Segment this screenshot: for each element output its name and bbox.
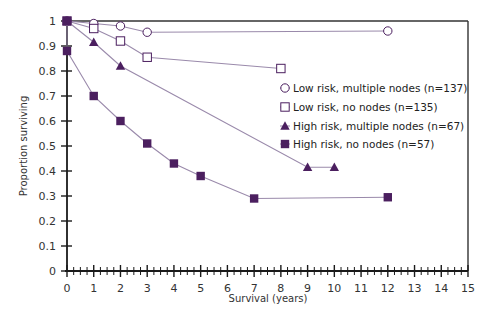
x-tick-label: 13: [408, 282, 422, 295]
open-square-marker: [277, 64, 285, 72]
x-axis-title: Survival (years): [229, 293, 308, 304]
y-tick-label: 0.3: [39, 190, 57, 203]
x-tick-label: 12: [381, 282, 395, 295]
series-line: [67, 21, 281, 69]
y-tick-label: 0.2: [39, 215, 57, 228]
y-tick-label: 0.1: [39, 240, 57, 253]
open-circle-marker: [281, 84, 289, 92]
legend-item-0: Low risk, multiple nodes (n=137): [280, 82, 467, 94]
y-tick-label: 0.6: [39, 115, 57, 128]
x-tick-label: 14: [434, 282, 448, 295]
filled-square-marker: [116, 117, 124, 125]
x-tick-label: 15: [461, 282, 475, 295]
y-tick-label: 0: [49, 265, 56, 278]
filled-square-marker: [196, 172, 204, 180]
filled-square-marker: [170, 159, 178, 167]
y-tick-label: 0.9: [39, 40, 57, 53]
x-axis: 0123456789101112131415: [64, 265, 476, 295]
y-tick-label: 0.4: [39, 165, 57, 178]
filled-square-marker: [63, 17, 71, 25]
legend-label: High risk, multiple nodes (n=67): [293, 120, 464, 132]
legend-item-2: High risk, multiple nodes (n=67): [280, 120, 464, 132]
x-tick-label: 3: [144, 282, 151, 295]
series-0: [63, 17, 392, 37]
open-square-marker: [281, 103, 289, 111]
filled-square-marker: [384, 193, 392, 201]
survival-chart: 00.10.20.30.40.50.60.70.80.91 0123456789…: [0, 0, 491, 327]
legend-label: Low risk, multiple nodes (n=137): [293, 82, 467, 94]
y-tick-label: 0.8: [39, 65, 57, 78]
open-square-marker: [116, 37, 124, 45]
legend-label: Low risk, no nodes (n=135): [293, 101, 438, 113]
x-tick-label: 4: [170, 282, 177, 295]
y-tick-label: 0.5: [39, 140, 57, 153]
y-tick-label: 0.7: [39, 90, 57, 103]
open-circle-marker: [384, 27, 392, 35]
x-tick-label: 2: [117, 282, 124, 295]
y-axis-title: Proportion surviving: [18, 96, 29, 197]
x-tick-label: 11: [354, 282, 368, 295]
x-tick-label: 10: [327, 282, 341, 295]
x-tick-label: 5: [197, 282, 204, 295]
legend-item-1: Low risk, no nodes (n=135): [280, 101, 438, 113]
filled-square-marker: [250, 194, 258, 202]
legend-item-3: High risk, no nodes (n=57): [280, 138, 434, 150]
y-tick-label: 1: [49, 15, 56, 28]
open-circle-marker: [116, 22, 124, 30]
filled-triangle-marker: [89, 38, 98, 46]
x-tick-label: 0: [64, 282, 71, 295]
filled-square-marker: [90, 92, 98, 100]
open-square-marker: [143, 53, 151, 61]
open-square-marker: [90, 24, 98, 32]
series-line: [67, 21, 388, 32]
open-circle-marker: [143, 28, 151, 36]
legend-label: High risk, no nodes (n=57): [293, 138, 434, 150]
filled-square-marker: [63, 47, 71, 55]
filled-square-marker: [143, 139, 151, 147]
filled-square-marker: [281, 140, 289, 148]
x-tick-label: 1: [90, 282, 97, 295]
legend: Low risk, multiple nodes (n=137)Low risk…: [280, 82, 467, 150]
